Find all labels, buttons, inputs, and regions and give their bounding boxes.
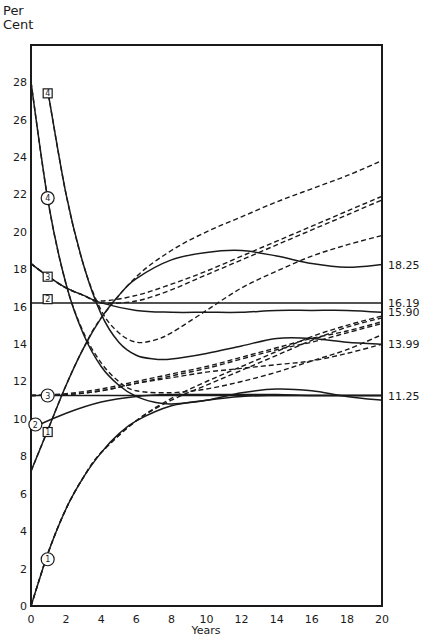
end-value-label: 11.25 (388, 390, 420, 403)
svg-text:1: 1 (45, 555, 50, 564)
series-dashed-c (31, 161, 382, 472)
svg-text:4: 4 (45, 89, 50, 98)
circle-marker-3: 3 (41, 389, 54, 402)
y-tick-label: 0 (20, 600, 27, 613)
x-tick-label: 12 (235, 613, 249, 626)
plot-frame (31, 45, 382, 606)
y-tick-label: 4 (20, 525, 27, 538)
box-marker-4: 4 (43, 89, 52, 99)
box-marker-2: 2 (43, 295, 52, 305)
end-value-label: 15.90 (388, 306, 420, 319)
y-tick-label: 18 (13, 263, 27, 276)
series-dashed-j (31, 344, 382, 395)
x-tick-label: 8 (168, 613, 175, 626)
y-tick-label: 6 (20, 488, 27, 501)
x-tick-label: 16 (305, 613, 319, 626)
series-box-3 (31, 264, 382, 313)
box-marker-1: 1 (43, 427, 52, 437)
series-dashed-a (31, 318, 382, 606)
series-dashed-g (31, 82, 382, 393)
y-tick-label: 10 (13, 413, 27, 426)
y-axis-ticks: 0246810121416182022242628 (13, 76, 27, 613)
x-tick-label: 0 (28, 613, 35, 626)
circle-marker-1: 1 (41, 553, 54, 566)
series-dashed-f (49, 95, 383, 342)
svg-text:3: 3 (45, 392, 50, 401)
series-dashed-b (31, 316, 382, 606)
svg-text:1: 1 (45, 428, 50, 437)
series-circle-1 (31, 395, 382, 606)
y-tick-label: 14 (13, 338, 27, 351)
series-circle-4 (31, 82, 382, 404)
line-chart: 12341234 0246810121416182022242628 02468… (0, 0, 426, 641)
y-tick-label: 20 (13, 226, 27, 239)
y-tick-label: 24 (13, 151, 27, 164)
end-value-label: 18.25 (388, 259, 420, 272)
y-tick-label: 16 (13, 301, 27, 314)
svg-text:2: 2 (45, 295, 50, 304)
x-tick-label: 4 (98, 613, 105, 626)
x-tick-label: 2 (63, 613, 70, 626)
y-tick-label: 12 (13, 375, 27, 388)
svg-text:4: 4 (45, 194, 50, 203)
svg-text:2: 2 (33, 421, 38, 430)
series-dashed-d (31, 196, 382, 301)
series-layer (31, 82, 382, 606)
x-tick-label: 18 (340, 613, 354, 626)
end-value-label: 13.99 (388, 338, 420, 351)
x-tick-label: 20 (375, 613, 389, 626)
y-tick-label: 26 (13, 114, 27, 127)
y-tick-label: 8 (20, 450, 27, 463)
right-end-labels: 18.2516.1915.9013.9911.25 (388, 259, 420, 403)
y-tick-label: 28 (13, 76, 27, 89)
box-marker-3: 3 (43, 272, 52, 282)
x-tick-label: 14 (270, 613, 284, 626)
svg-text:3: 3 (45, 273, 50, 282)
y-tick-label: 22 (13, 188, 27, 201)
circle-marker-4: 4 (41, 192, 54, 205)
circle-marker-2: 2 (29, 418, 42, 431)
series-box-1 (31, 250, 382, 471)
y-tick-label: 2 (20, 563, 27, 576)
x-tick-label: 6 (133, 613, 140, 626)
x-axis-title: Years (190, 624, 220, 637)
